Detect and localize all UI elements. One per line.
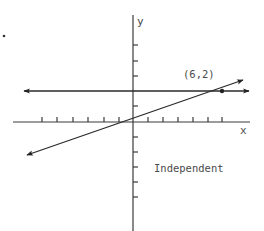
point-label: (6,2) bbox=[183, 68, 215, 80]
linear-system-graph: y x (6,2) Independent bbox=[0, 0, 264, 231]
caption: Independent bbox=[154, 162, 224, 174]
intersection-point bbox=[220, 89, 224, 93]
y-axis bbox=[133, 15, 138, 231]
x-axis-label: x bbox=[240, 124, 247, 137]
stray-dot bbox=[3, 35, 6, 38]
y-axis-label: y bbox=[137, 15, 144, 28]
x-axis bbox=[13, 117, 250, 122]
